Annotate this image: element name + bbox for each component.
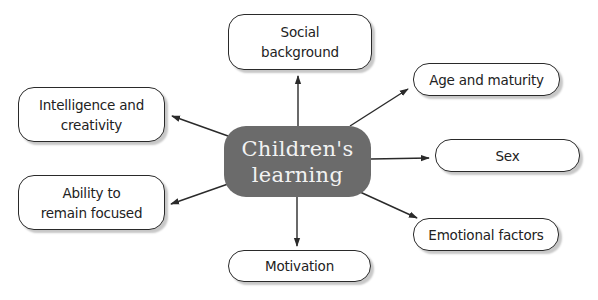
node-label: Motivation — [265, 256, 334, 276]
node-label: Social background — [261, 22, 339, 62]
arrow-to-intelligence-and-creativity — [172, 116, 228, 136]
arrow-to-age-and-maturity — [350, 89, 408, 126]
node-social-background: Social background — [228, 14, 372, 70]
node-age-and-maturity: Age and maturity — [413, 63, 560, 96]
center-node-childrens-learning: Children's learning — [224, 126, 371, 197]
node-ability-to-remain-focused: Ability to remain focused — [18, 175, 165, 230]
node-label: Ability to remain focused — [41, 183, 143, 223]
node-label: Intelligence and creativity — [39, 95, 144, 135]
arrow-to-emotional-factors — [360, 192, 417, 218]
node-intelligence-and-creativity: Intelligence and creativity — [18, 87, 165, 142]
mind-map: Children's learning Social background In… — [0, 0, 598, 300]
node-label: Emotional factors — [428, 225, 543, 245]
node-label: Sex — [495, 146, 519, 166]
center-label: Children's learning — [241, 136, 353, 188]
arrow-to-ability-to-remain-focused — [171, 184, 228, 204]
node-label: Age and maturity — [429, 70, 544, 90]
node-emotional-factors: Emotional factors — [413, 218, 559, 251]
node-motivation: Motivation — [228, 250, 371, 282]
node-sex: Sex — [435, 139, 580, 172]
arrow-to-sex — [371, 158, 429, 159]
